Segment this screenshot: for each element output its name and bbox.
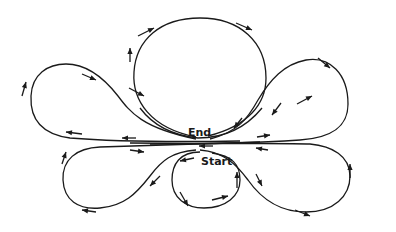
- direction-arrow-icon: [272, 103, 281, 115]
- direction-arrow-icon: [180, 157, 194, 162]
- direction-arrow-icon: [256, 146, 268, 151]
- direction-arrow-icon: [127, 48, 132, 62]
- direction-arrow-icon: [236, 23, 252, 30]
- direction-arrow-icon: [212, 195, 228, 200]
- upper-right-petal-path: [150, 59, 348, 144]
- direction-arrow-icon: [256, 174, 262, 186]
- direction-arrow-icon: [82, 74, 96, 80]
- loop-diagram: End Start: [0, 0, 396, 232]
- direction-arrow-icon: [257, 133, 270, 138]
- direction-arrow-icon: [122, 135, 136, 140]
- direction-arrow-icon: [62, 152, 67, 164]
- top-circle-path: [134, 18, 266, 137]
- lower-left-petal-path: [63, 142, 260, 208]
- direction-arrow-icon: [66, 130, 82, 135]
- diagram-canvas: End Start: [0, 0, 396, 232]
- direction-arrow-icon: [180, 192, 188, 206]
- direction-arrow-icon: [82, 208, 96, 213]
- direction-arrow-icon: [150, 176, 160, 186]
- direction-arrow-icon: [130, 149, 144, 154]
- direction-arrow-icon: [295, 210, 310, 216]
- start-label: Start: [201, 155, 232, 168]
- end-label: End: [188, 126, 211, 139]
- direction-arrow-icon: [22, 82, 27, 96]
- direction-arrow-icon: [297, 96, 312, 104]
